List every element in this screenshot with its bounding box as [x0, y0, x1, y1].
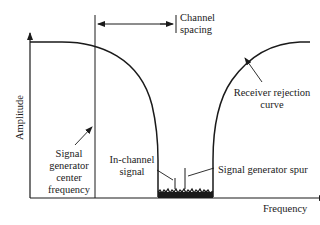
center-label-line4: frequency — [44, 184, 94, 196]
channel-spacing-label: Channel spacing — [180, 12, 215, 36]
receiver-curve-leader — [245, 58, 262, 82]
center-frequency-label: Signal generator center frequency — [44, 148, 94, 196]
spur-leader — [188, 168, 214, 176]
center-label-line1: Signal — [44, 148, 94, 160]
center-frequency-leader — [75, 127, 92, 145]
receiver-label-line2: curve — [222, 99, 320, 111]
channel-spacing-line1: Channel — [180, 12, 215, 24]
center-label-line3: center — [44, 172, 94, 184]
signal-generator-spur-label: Signal generator spur — [218, 164, 308, 176]
receiver-rejection-curve-label: Receiver rejection curve — [222, 87, 320, 111]
x-axis-label: Frequency — [263, 203, 307, 215]
center-label-line2: generator — [44, 160, 94, 172]
in-channel-signal-label: In-channel signal — [104, 154, 160, 178]
in-channel-line1: In-channel — [104, 154, 160, 166]
y-axis-label: Amplitude — [14, 95, 25, 140]
in-channel-line2: signal — [104, 166, 160, 178]
channel-spacing-line2: spacing — [180, 24, 215, 36]
receiver-label-line1: Receiver rejection — [222, 87, 320, 99]
